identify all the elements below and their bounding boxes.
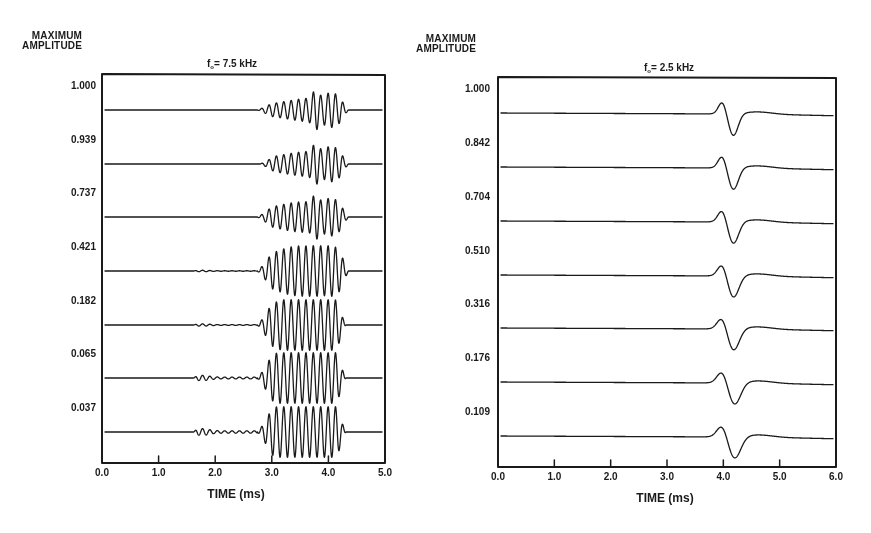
left-xlabel: TIME (ms) (207, 487, 264, 501)
right-title-rest: = 2.5 kHz (651, 62, 694, 73)
right-x-tick-label: 5.0 (773, 471, 787, 482)
left-panel-title: fo= 7.5 kHz (207, 58, 257, 70)
left-amplitude-label: 0.737 (48, 187, 96, 198)
right-x-tick-label: 3.0 (660, 471, 674, 482)
right-ylabel: MAXIMUM AMPLITUDE (416, 34, 476, 54)
right-x-tick-label: 0.0 (491, 471, 505, 482)
left-x-tick-label: 0.0 (95, 467, 109, 478)
left-amplitude-label: 0.065 (48, 348, 96, 359)
left-x-tick-label: 2.0 (208, 467, 222, 478)
left-ylabel-line2: AMPLITUDE (22, 41, 82, 51)
right-amplitude-label: 0.176 (442, 352, 490, 363)
left-x-tick-label: 1.0 (152, 467, 166, 478)
left-amplitude-label: 0.421 (48, 241, 96, 252)
right-ylabel-line2: AMPLITUDE (416, 44, 476, 54)
waveform-canvas (0, 0, 871, 533)
right-amplitude-label: 0.842 (442, 137, 490, 148)
left-amplitude-label: 0.939 (48, 134, 96, 145)
right-x-tick-label: 6.0 (829, 471, 843, 482)
left-x-tick-label: 4.0 (321, 467, 335, 478)
left-title-rest: = 7.5 kHz (214, 58, 257, 69)
left-ylabel: MAXIMUM AMPLITUDE (22, 31, 82, 51)
right-amplitude-label: 1.000 (442, 83, 490, 94)
right-amplitude-label: 0.109 (442, 406, 490, 417)
left-amplitude-label: 1.000 (48, 80, 96, 91)
right-amplitude-label: 0.510 (442, 245, 490, 256)
right-x-tick-label: 1.0 (547, 471, 561, 482)
left-x-tick-label: 3.0 (265, 467, 279, 478)
right-amplitude-label: 0.704 (442, 191, 490, 202)
left-x-tick-label: 5.0 (378, 467, 392, 478)
left-amplitude-label: 0.037 (48, 402, 96, 413)
left-amplitude-label: 0.182 (48, 295, 96, 306)
right-x-tick-label: 2.0 (604, 471, 618, 482)
right-amplitude-label: 0.316 (442, 298, 490, 309)
right-xlabel: TIME (ms) (636, 491, 693, 505)
right-x-tick-label: 4.0 (716, 471, 730, 482)
right-panel-title: fo= 2.5 kHz (644, 62, 694, 74)
